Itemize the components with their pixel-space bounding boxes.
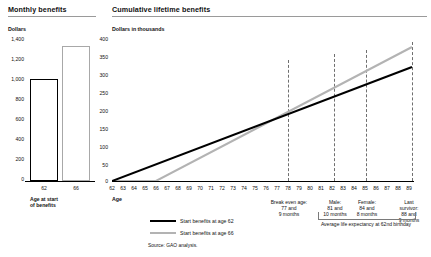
left-ytick-800: 800	[0, 96, 24, 102]
cumulative-benefits-plot	[112, 30, 422, 185]
left-y-axis-unit: Dollars	[8, 26, 26, 32]
right-panel-divider	[112, 16, 427, 17]
left-ytick-1200: 1,200	[0, 56, 24, 62]
right-x-axis-name: Age	[112, 196, 122, 202]
legend-item-age-62: Start benefits at age 62	[150, 218, 234, 224]
figure-root: Monthly benefits Dollars 1,400 1,200 1,0…	[0, 0, 431, 257]
left-ytick-1000: 1,000	[0, 76, 24, 82]
left-ytick-200: 200	[0, 156, 24, 162]
left-xtick-62: 62	[30, 185, 58, 191]
legend-swatch-gray	[150, 232, 176, 234]
left-x-axis-caption-line2: of benefits	[30, 202, 56, 208]
right-panel-title: Cumulative lifetime benefits	[112, 5, 210, 14]
left-ytick-600: 600	[0, 116, 24, 122]
series-line-age-66	[112, 47, 412, 181]
right-ytick-50: 50	[88, 162, 108, 168]
right-x-axis-line	[112, 181, 414, 182]
left-panel-divider	[8, 16, 96, 17]
legend-label-age-62: Start benefits at age 62	[180, 218, 234, 224]
left-ytick-400: 400	[0, 136, 24, 142]
right-ytick-400: 400	[88, 36, 108, 42]
left-ytick-0: 0	[0, 176, 24, 182]
right-ytick-300: 300	[88, 72, 108, 78]
right-ytick-200: 200	[88, 108, 108, 114]
legend-item-age-66: Start benefits at age 66	[150, 230, 234, 236]
life-expectancy-bracket-label: Average life expectancy at 62nd birthday	[310, 221, 422, 227]
bar-age-66	[62, 46, 90, 181]
right-ytick-100: 100	[88, 144, 108, 150]
right-ytick-150: 150	[88, 126, 108, 132]
bar-age-62	[30, 79, 58, 181]
right-ytick-350: 350	[88, 54, 108, 60]
legend-swatch-black	[150, 220, 176, 222]
left-panel-title: Monthly benefits	[8, 5, 67, 14]
right-ytick-0: 0	[88, 178, 108, 184]
left-x-axis-line	[25, 181, 95, 182]
left-ytick-1400: 1,400	[0, 36, 24, 42]
legend-label-age-66: Start benefits at age 66	[180, 230, 234, 236]
right-xtick-89: 89	[401, 185, 417, 191]
series-line-age-62	[112, 67, 412, 181]
source-note: Source: GAO analysis.	[148, 243, 197, 248]
life-expectancy-bracket	[318, 212, 416, 220]
left-xtick-66: 66	[62, 185, 90, 191]
right-ytick-250: 250	[88, 90, 108, 96]
